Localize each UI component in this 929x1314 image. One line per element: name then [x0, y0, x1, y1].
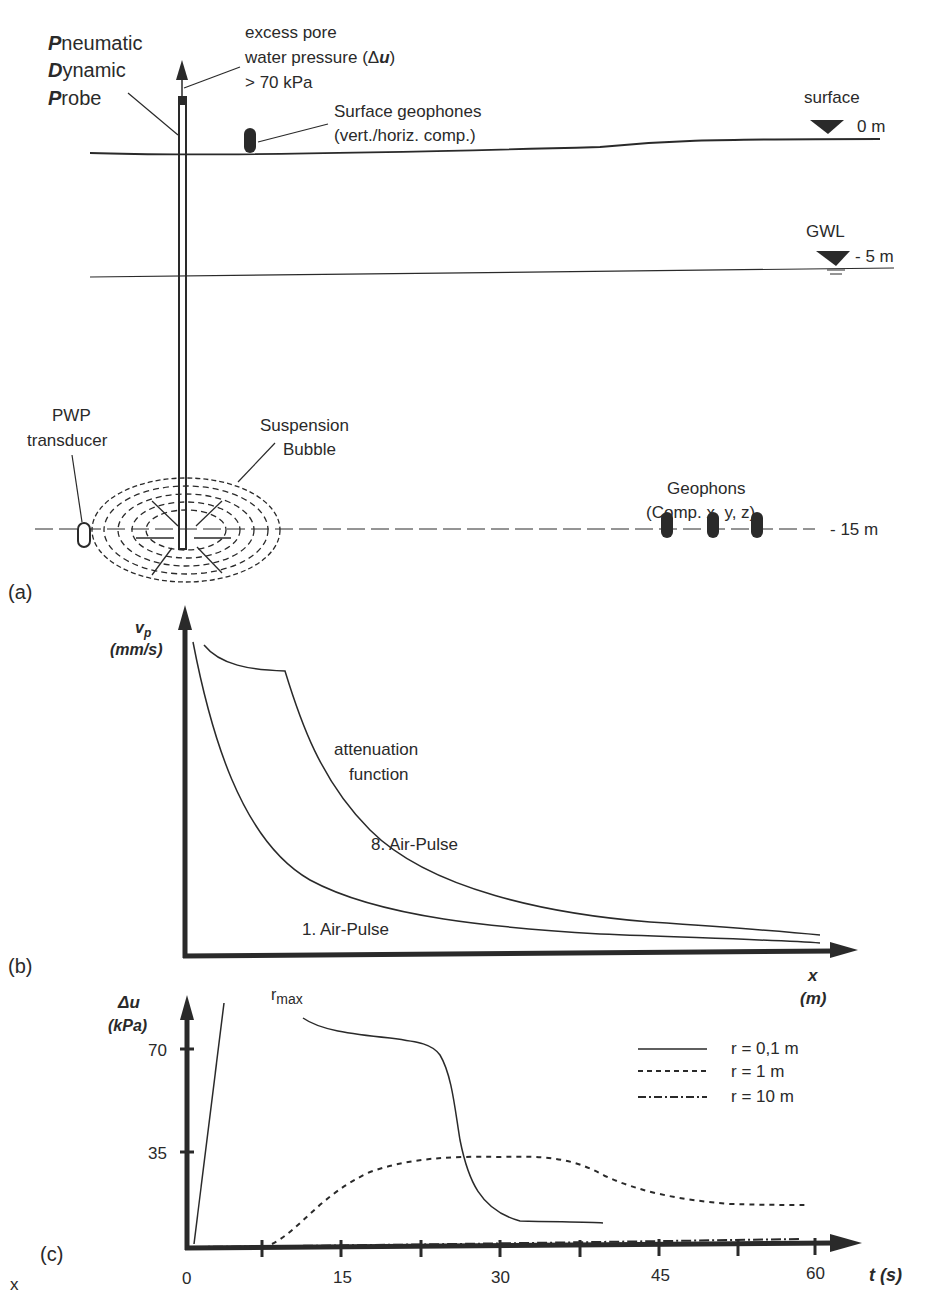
- time-axis-arrow-icon: [830, 1234, 862, 1252]
- xtick-label-30: 30: [491, 1268, 510, 1287]
- surface-geophones-label-line2: (vert./horiz. comp.): [334, 126, 476, 145]
- panel-c-tag: (c): [40, 1243, 63, 1265]
- du-label: Δu: [117, 993, 140, 1012]
- gwl-depth-label: - 5 m: [855, 247, 894, 266]
- legend-label-r-1m: r = 1 m: [731, 1062, 784, 1081]
- du-unit-label: (kPa): [108, 1017, 147, 1034]
- ytick-label-70: 70: [148, 1041, 167, 1060]
- gwl-level-marker-icon: [816, 251, 850, 266]
- legend-label-r-10m: r = 10 m: [731, 1087, 794, 1106]
- attenuation-label-line2: function: [349, 765, 409, 784]
- probe-label-line2: Dynamic: [48, 59, 126, 81]
- xtick-label-45: 45: [651, 1266, 670, 1285]
- curve-r-0-1m: [194, 1003, 603, 1244]
- curve-8-air-pulse: [204, 645, 820, 935]
- panel-c: 70 35 0 15 30 45 60 t (s) Δu (kPa) rmax: [10, 986, 902, 1294]
- curve-1-air-pulse: [193, 642, 820, 943]
- pressure-label-line2: water pressure (Δu): [244, 48, 395, 67]
- panel-a: Pneumatic Dynamic Probe excess pore wate…: [8, 23, 894, 603]
- time-axis-label: t (s): [869, 1265, 902, 1285]
- curve-r-1m: [272, 1157, 806, 1244]
- attenuation-label-line1: attenuation: [334, 740, 418, 759]
- surface-level-marker-icon: [810, 120, 844, 134]
- bubble-label-line2: Bubble: [283, 440, 336, 459]
- figure: Pneumatic Dynamic Probe excess pore wate…: [0, 0, 929, 1314]
- xtick-label-0: 0: [182, 1269, 191, 1288]
- x-unit-label: (m): [800, 989, 827, 1008]
- geophons-label-line2: (Comp. x, y, z): [646, 503, 755, 522]
- panel-b-tag: (b): [8, 955, 32, 977]
- vp-unit-label: (mm/s): [110, 641, 162, 658]
- pressure-label-line3: > 70 kPa: [245, 73, 313, 92]
- ground-surface-line: [90, 139, 880, 154]
- legend: r = 0,1 m r = 1 m r = 10 m: [638, 1039, 799, 1106]
- x-axis: [183, 951, 835, 956]
- geophons-label-line1: Geophons: [667, 479, 745, 498]
- probe-leader-line: [128, 93, 178, 135]
- geophone-leader-line: [258, 124, 328, 142]
- panel-b: vp (mm/s) x (m) attenuation function 8. …: [8, 605, 858, 1008]
- bubble-label-line1: Suspension: [260, 416, 349, 435]
- probe-tip: [179, 97, 186, 105]
- surface-label: surface: [804, 88, 860, 107]
- surface-geophones-label-line1: Surface geophones: [334, 102, 481, 121]
- xtick-label-15: 15: [333, 1268, 352, 1287]
- pwp-transducer-icon: [78, 523, 90, 547]
- pressure-leader-line: [184, 67, 240, 88]
- pwp-leader-line: [72, 455, 82, 522]
- surface-depth-label: 0 m: [857, 117, 885, 136]
- vp-axis-arrow-icon: [178, 605, 192, 630]
- du-axis-arrow-icon: [180, 995, 194, 1020]
- curve-8-label: 8. Air-Pulse: [371, 835, 458, 854]
- panel-a-tag: (a): [8, 581, 32, 603]
- groundwater-level-line: [90, 268, 894, 277]
- ytick-label-35: 35: [148, 1144, 167, 1163]
- bubble-leader-line: [238, 443, 275, 482]
- deep-depth-label: - 15 m: [830, 520, 878, 539]
- pressure-label-line1: excess pore: [245, 23, 337, 42]
- surface-geophone-icon: [244, 128, 256, 153]
- probe-rod: [179, 97, 186, 549]
- stray-mark: x: [10, 1275, 19, 1294]
- xtick-label-60: 60: [806, 1264, 825, 1283]
- rmax-label: rmax: [271, 986, 303, 1007]
- probe-label-line3: Probe: [48, 87, 101, 109]
- legend-label-r-0-1m: r = 0,1 m: [731, 1039, 799, 1058]
- pwp-label-line1: PWP: [52, 406, 91, 425]
- x-axis-arrow-icon: [830, 942, 858, 958]
- pressure-arrow-head-icon: [176, 60, 188, 80]
- probe-label-line1: Pneumatic: [48, 32, 143, 54]
- pwp-label-line2: transducer: [27, 431, 108, 450]
- curve-1-label: 1. Air-Pulse: [302, 920, 389, 939]
- vp-label: vp: [135, 619, 151, 640]
- x-label: x: [807, 966, 819, 985]
- gwl-label: GWL: [806, 222, 845, 241]
